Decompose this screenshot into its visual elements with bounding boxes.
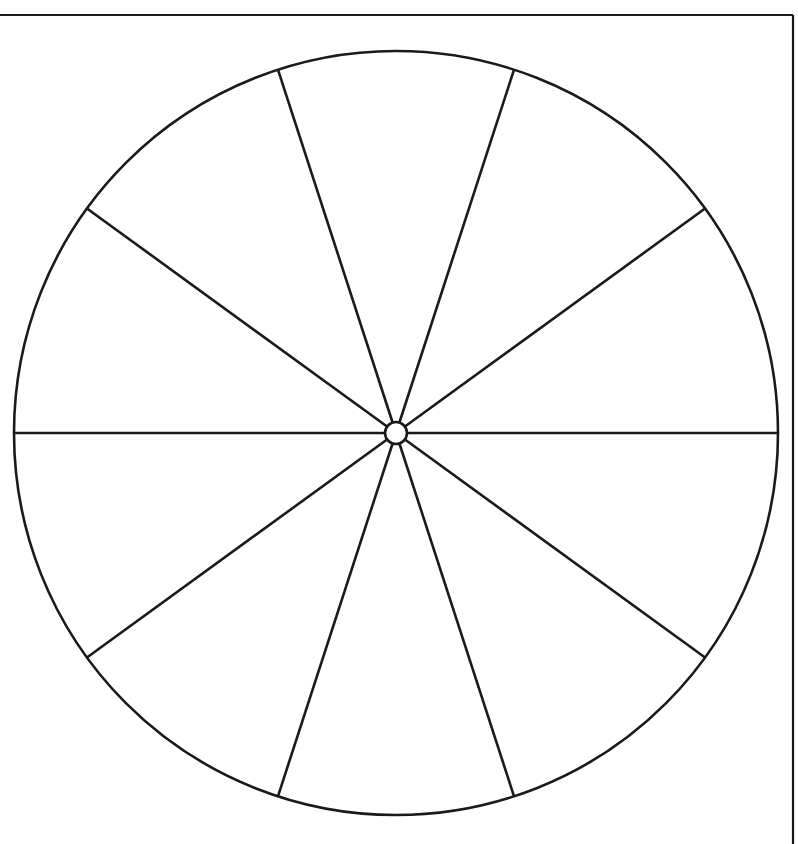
pie-chart-group — [14, 51, 778, 815]
hub-circle — [385, 422, 407, 444]
figure-page — [0, 0, 798, 844]
wheel-diagram — [0, 0, 798, 844]
